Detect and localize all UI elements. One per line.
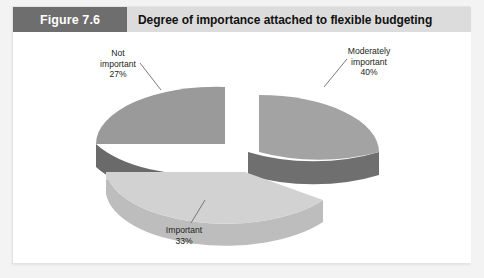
pie-slice-moderately-important-top xyxy=(259,95,379,160)
pie-label-not-important-line1: Not xyxy=(75,48,161,59)
figure-container: Figure 7.6 Degree of importance attached… xyxy=(0,0,484,278)
figure-header: Figure 7.6 Degree of importance attached… xyxy=(13,7,471,32)
pie-label-important: Important 33% xyxy=(141,225,227,246)
pie-label-not-important: Not important 27% xyxy=(75,48,161,80)
pie-label-moderately-important-line1: Moderately xyxy=(326,46,412,57)
pie-slice-moderately-important[interactable] xyxy=(248,95,379,184)
pie-label-not-important-line2: important xyxy=(75,59,161,70)
pie-slice-important-top-edge xyxy=(106,172,245,180)
pie-label-moderately-important-value: 40% xyxy=(326,67,412,78)
pie-label-important-value: 33% xyxy=(141,236,227,247)
figure-number-tag: Figure 7.6 xyxy=(13,7,127,32)
pie-slice-not-important-top xyxy=(96,87,225,144)
figure-title: Degree of importance attached to flexibl… xyxy=(127,7,471,32)
chart-plot-area: Moderately important 40% Not important 2… xyxy=(13,32,471,263)
pie-label-important-line1: Important xyxy=(141,225,227,236)
figure-panel: Figure 7.6 Degree of importance attached… xyxy=(12,6,470,264)
pie-label-moderately-important-line2: important xyxy=(326,57,412,68)
pie-label-moderately-important: Moderately important 40% xyxy=(326,46,412,78)
pie-label-not-important-value: 27% xyxy=(75,69,161,80)
